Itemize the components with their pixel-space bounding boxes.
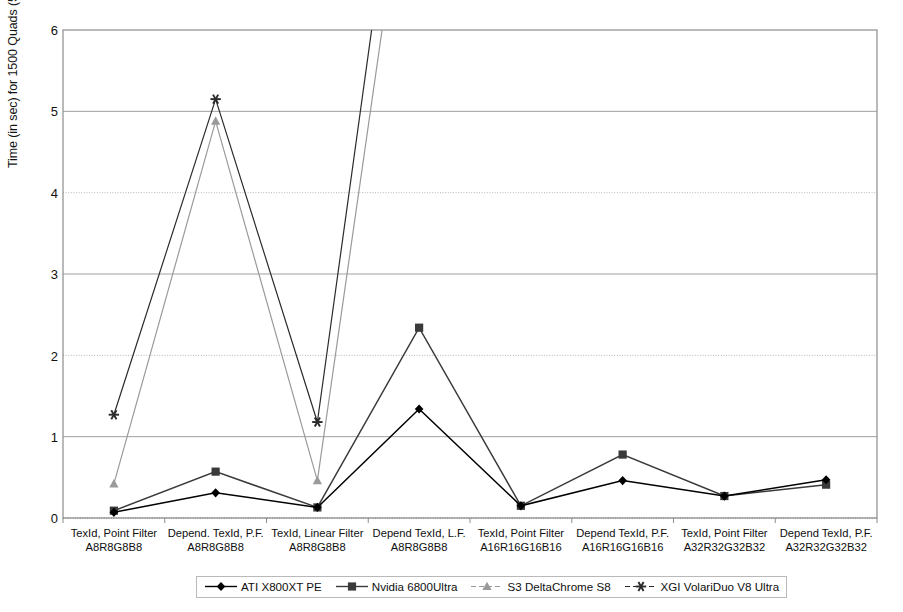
x-category-label-line2: A8R8G8B8 xyxy=(373,541,466,555)
series-layer xyxy=(109,0,831,517)
x-category-label-line1: TexId, Point Filter xyxy=(681,527,767,539)
x-category-label-6: Depend TexId, P.F.A16R16G16B16 xyxy=(576,527,669,554)
legend-label: Nvidia 6800Ultra xyxy=(372,580,458,593)
plot-area xyxy=(0,0,903,612)
x-category-label-line1: Depend TexId, P.F. xyxy=(780,527,873,539)
x-category-label-line2: A16R16G16B16 xyxy=(478,541,564,555)
x-category-label-7: TexId, Point FilterA32R32G32B32 xyxy=(681,527,767,554)
x-category-label-line1: TexId, Linear Filter xyxy=(271,527,363,539)
x-category-label-line2: A8R8G8B8 xyxy=(271,541,363,555)
legend-item-1[interactable]: ATI X800XT PE xyxy=(204,580,322,593)
x-category-label-8: Depend TexId, P.F.A32R32G32B32 xyxy=(780,527,873,554)
x-category-label-line2: A32R32G32B32 xyxy=(780,541,873,555)
x-category-label-line2: A8R8G8B8 xyxy=(168,541,264,555)
legend-item-2[interactable]: Nvidia 6800Ultra xyxy=(335,580,458,593)
x-category-label-1: TexId, Point FilterA8R8G8B8 xyxy=(71,527,157,554)
legend-item-4[interactable]: XGI VolariDuo V8 Ultra xyxy=(624,580,780,593)
x-category-label-2: Depend. TexId, P.F.A8R8G8B8 xyxy=(168,527,264,554)
series-nvidia-6800ultra xyxy=(110,324,830,515)
x-category-label-5: TexId, Point FilterA16R16G16B16 xyxy=(478,527,564,554)
x-category-label-line1: TexId, Point Filter xyxy=(71,527,157,539)
legend-item-3[interactable]: S3 DeltaChrome S8 xyxy=(470,580,610,593)
x-axis-tick-marks xyxy=(63,518,877,523)
series-s3-deltachrome-s8 xyxy=(109,0,425,487)
x-category-label-line2: A32R32G32B32 xyxy=(681,541,767,555)
x-category-label-line2: A8R8G8B8 xyxy=(71,541,157,555)
x-category-label-line1: Depend. TexId, P.F. xyxy=(168,527,264,539)
x-category-label-line1: TexId, Point Filter xyxy=(478,527,564,539)
chart-legend: ATI X800XT PENvidia 6800UltraS3 DeltaChr… xyxy=(196,576,787,598)
legend-label: ATI X800XT PE xyxy=(241,580,322,593)
legend-marker-diamond-icon xyxy=(204,580,238,593)
legend-marker-triangle-icon xyxy=(470,580,504,593)
x-category-label-3: TexId, Linear FilterA8R8G8B8 xyxy=(271,527,363,554)
x-category-label-line1: Depend TexId, L.F. xyxy=(373,527,466,539)
series-xgi-volariduo-v8-ultra xyxy=(109,0,413,427)
legend-label: XGI VolariDuo V8 Ultra xyxy=(661,580,780,593)
chart-container: Time (in sec) for 1500 Quads (512x512) 6… xyxy=(0,0,903,612)
x-category-label-line1: Depend TexId, P.F. xyxy=(576,527,669,539)
legend-marker-square-icon xyxy=(335,580,369,593)
legend-label: S3 DeltaChrome S8 xyxy=(507,580,610,593)
x-category-label-4: Depend TexId, L.F.A8R8G8B8 xyxy=(373,527,466,554)
legend-marker-star-icon xyxy=(624,580,658,593)
x-category-label-line2: A16R16G16B16 xyxy=(576,541,669,555)
